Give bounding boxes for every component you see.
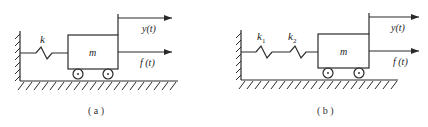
displacement-label-a: y(t) [141, 23, 157, 35]
wall-b [236, 30, 241, 80]
wall-a [15, 31, 20, 81]
ground-b [239, 80, 398, 89]
figure-a: k m y(t) f (t) ( a ) [15, 14, 178, 117]
wheel-b-left [323, 68, 333, 78]
spring-k2-b [287, 46, 318, 58]
ground-hatch-b [239, 81, 397, 89]
spring-label-k-a: k [40, 33, 46, 45]
caption-b: ( b ) [317, 105, 334, 117]
mass-label-a: m [89, 47, 96, 58]
ground-a [18, 81, 178, 90]
force-label-a: f (t) [140, 57, 155, 69]
displacement-label-b: y(t) [390, 22, 406, 34]
figure-b: k1 k2 m y(t) f (t) ( b ) [236, 13, 419, 117]
spring-k-a [20, 47, 68, 59]
wheel-b-right [354, 68, 364, 78]
wheel-a-left [73, 69, 83, 79]
ground-hatch-a [18, 82, 176, 90]
spring-label-k2-b: k2 [288, 30, 297, 45]
mass-label-b: m [340, 46, 347, 57]
force-label-b: f (t) [393, 56, 408, 68]
wheel-a-right [103, 69, 113, 79]
spring-label-k1-b: k1 [257, 30, 266, 45]
spring-k1-b [241, 46, 287, 58]
diagram-canvas: k m y(t) f (t) ( a ) [0, 0, 428, 127]
caption-a: ( a ) [88, 105, 104, 117]
